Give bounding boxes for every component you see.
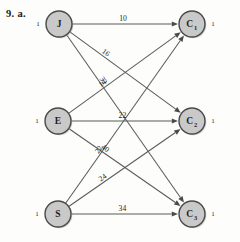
supply-label-j: 1 <box>36 20 40 28</box>
edge-cost-s-c2: 24 <box>97 171 109 183</box>
edge-cost-j-c2: 16 <box>100 47 112 59</box>
demand-label-c3: 1 <box>211 210 215 218</box>
demand-label-c1: 1 <box>211 20 215 28</box>
figure-root: 9. a. 101632142240222434 J1E1S1C11C21C31 <box>0 0 240 242</box>
node-label-c3: C <box>186 209 193 219</box>
node-label-e: E <box>55 116 61 126</box>
node-c2[interactable]: C21 <box>179 108 215 135</box>
node-subscript-c1: 1 <box>194 24 197 31</box>
node-c1[interactable]: C11 <box>179 11 215 38</box>
node-subscript-c2: 2 <box>194 121 197 128</box>
node-label-j: J <box>57 19 62 29</box>
demand-label-c2: 1 <box>211 117 215 125</box>
node-e[interactable]: E1 <box>35 108 72 135</box>
node-subscript-c3: 3 <box>194 214 197 221</box>
edge-cost-e-c2: 22 <box>119 111 127 120</box>
supply-label-s: 1 <box>35 210 39 218</box>
node-label-c1: C <box>186 19 193 29</box>
supply-label-e: 1 <box>35 117 39 125</box>
node-j[interactable]: J1 <box>36 11 73 38</box>
edge-cost-j-c1: 10 <box>119 14 127 23</box>
network-diagram: 101632142240222434 J1E1S1C11C21C31 <box>0 0 240 242</box>
node-s[interactable]: S1 <box>35 201 72 228</box>
node-label-c2: C <box>186 116 193 126</box>
node-label-s: S <box>55 209 60 219</box>
edge-cost-labels-layer: 101632142240222434 <box>93 14 127 213</box>
node-c3[interactable]: C31 <box>179 201 215 228</box>
edge-cost-s-c3: 34 <box>119 204 127 213</box>
